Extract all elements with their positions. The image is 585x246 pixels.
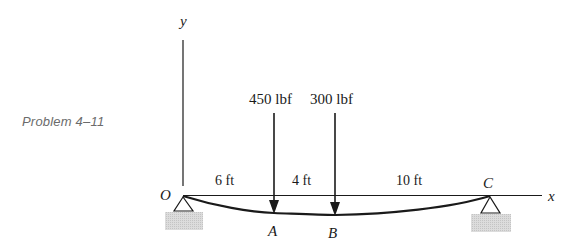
point-label-a: A: [267, 223, 278, 239]
dimension-label-4ft: 4 ft: [292, 173, 311, 188]
beam-diagram: y x O C A B 450 lbf 300 lbf 6 ft 4 ft 10…: [0, 0, 585, 246]
load-label-450: 450 lbf: [249, 91, 292, 107]
point-label-o: O: [160, 187, 171, 203]
load-label-300: 300 lbf: [310, 91, 353, 107]
point-label-c: C: [483, 175, 494, 191]
load-arrow-a: [269, 113, 279, 214]
point-label-b: B: [328, 225, 337, 241]
dimension-label-6ft: 6 ft: [215, 173, 234, 188]
y-axis-label: y: [178, 13, 187, 29]
x-axis-label: x: [547, 188, 555, 204]
load-arrow-b: [330, 113, 340, 216]
pin-support-right: [471, 197, 511, 232]
dimension-label-10ft: 10 ft: [396, 173, 422, 188]
